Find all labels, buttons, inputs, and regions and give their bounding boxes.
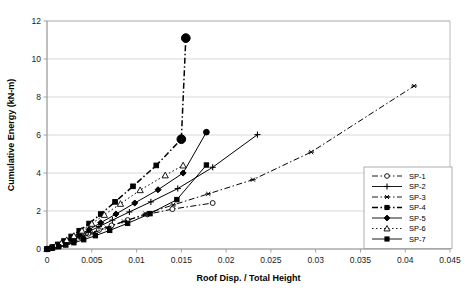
legend-label-sp-3: SP-3 [409,193,426,202]
x-tick-label: 0.04 [397,255,414,265]
marker-filled-square [50,246,54,250]
marker-filled-square [204,163,208,167]
legend-label-sp-7: SP-7 [409,235,426,244]
y-axis-title: Cumulative Energy (kN-m) [6,79,16,192]
marker-filled-diamond [113,211,119,217]
marker-open-circle [210,201,215,206]
x-tick-label: 0.01 [128,255,145,265]
x-tick-label: 0.03 [307,255,324,265]
marker-filled-square [72,241,76,245]
x-tick-label: 0.035 [350,255,372,265]
marker-filled-diamond [132,200,138,206]
marker-filled-square [154,163,159,168]
legend-label-sp-1: SP-1 [409,172,426,181]
y-tick-label: 4 [36,168,41,178]
marker-filled-square [56,245,60,249]
series-group [44,34,417,252]
marker-open-circle [385,174,390,179]
x-tick-label: 0.025 [260,255,282,265]
marker-filled-diamond [180,170,186,176]
chart-container: 02468101200.0050.010.0150.020.0250.030.0… [0,0,466,297]
x-tick-label: 0.005 [81,255,103,265]
series-line-sp-5 [47,132,206,249]
y-tick-label: 12 [32,16,42,26]
marker-open-triangle [117,201,123,207]
marker-open-circle [170,207,175,212]
axis-titles-group: Roof Disp. / Total HeightCumulative Ener… [6,79,300,283]
x-axis-title: Roof Disp. / Total Height [197,273,301,283]
marker-filled-circle [204,129,210,135]
legend: SP-1SP-2SP-3SP-4SP-5SP-6SP-7 [364,167,452,249]
marker-open-triangle [137,187,143,193]
marker-filled-square [385,205,389,209]
marker-filled-square [93,234,97,238]
marker-filled-square [125,221,129,225]
legend-label-sp-6: SP-6 [409,224,426,233]
x-tick-label: 0.015 [171,255,193,265]
marker-filled-square [64,243,68,247]
x-tick-label: 0.02 [218,255,235,265]
legend-label-sp-2: SP-2 [409,182,426,191]
marker-filled-square [385,237,389,241]
y-tick-label: 10 [32,54,42,64]
x-tick-label: 0 [45,255,50,265]
marker-filled-square [45,247,49,251]
series-sp-6 [44,162,186,251]
y-tick-label: 8 [36,92,41,102]
marker-filled-square [131,184,136,189]
y-tick-label: 2 [36,206,41,216]
marker-open-triangle [180,162,186,168]
x-tick-label: 0.045 [439,255,461,265]
y-tick-label: 0 [36,244,41,254]
legend-label-sp-5: SP-5 [409,214,426,223]
marker-filled-circle [177,135,186,144]
marker-filled-circle [181,34,190,43]
marker-filled-square [113,200,118,205]
y-tick-label: 6 [36,130,41,140]
marker-filled-square [108,228,112,232]
marker-filled-square [82,238,86,242]
series-line-sp-4 [47,38,186,249]
marker-filled-square [148,211,152,215]
legend-label-sp-4: SP-4 [409,203,426,212]
series-sp-4 [45,34,190,252]
cumulative-energy-chart: 02468101200.0050.010.0150.020.0250.030.0… [0,0,466,297]
marker-filled-diamond [155,187,161,193]
marker-filled-square [175,197,179,201]
